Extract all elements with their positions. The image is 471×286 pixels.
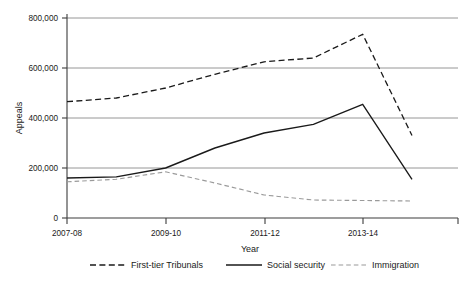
- y-tick-label-200000: 200,000: [28, 164, 58, 173]
- legend-item-social-security[interactable]: Social security: [226, 260, 326, 270]
- y-tick-label-600000: 600,000: [28, 64, 58, 73]
- legend-label-first-tier-tribunals: First-tier Tribunals: [131, 260, 204, 270]
- x-tick-label-2009-10: 2009-10: [151, 229, 181, 238]
- y-axis-title: Appeals: [14, 101, 24, 134]
- y-tick-label-0: 0: [53, 214, 58, 223]
- legend: First-tier Tribunals Social security Imm…: [90, 260, 419, 270]
- series-first-tier-tribunals: [67, 34, 412, 135]
- x-tick-marks: [67, 218, 458, 224]
- x-tick-label-2013-14: 2013-14: [348, 229, 378, 238]
- y-tick-marks: [62, 18, 67, 218]
- chart-svg: 800,000 600,000 400,000 200,000 0 2007-0…: [0, 0, 471, 286]
- legend-label-social-security: Social security: [267, 260, 326, 270]
- y-tick-label-800000: 800,000: [28, 14, 58, 23]
- x-axis-title: Year: [241, 244, 259, 254]
- legend-item-first-tier-tribunals[interactable]: First-tier Tribunals: [90, 260, 204, 270]
- x-tick-label-2007-08: 2007-08: [52, 229, 82, 238]
- x-tick-label-2011-12: 2011-12: [250, 229, 280, 238]
- legend-item-immigration[interactable]: Immigration: [331, 260, 419, 270]
- y-tick-label-400000: 400,000: [28, 114, 58, 123]
- line-chart: 800,000 600,000 400,000 200,000 0 2007-0…: [0, 0, 471, 286]
- y-tick-labels: 800,000 600,000 400,000 200,000 0: [28, 14, 58, 223]
- legend-label-immigration: Immigration: [372, 260, 419, 270]
- gridlines: [67, 18, 458, 168]
- x-tick-labels: 2007-08 2009-10 2011-12 2013-14: [52, 229, 378, 238]
